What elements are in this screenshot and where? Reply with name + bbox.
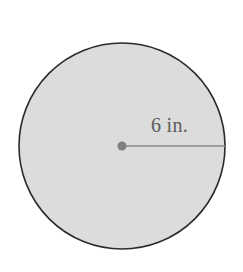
radius-measurement-label: 6 in. — [151, 114, 188, 136]
figure-canvas: 6 in. — [0, 0, 243, 272]
circle-diagram-svg — [0, 0, 243, 272]
center-point-dot — [118, 142, 127, 151]
